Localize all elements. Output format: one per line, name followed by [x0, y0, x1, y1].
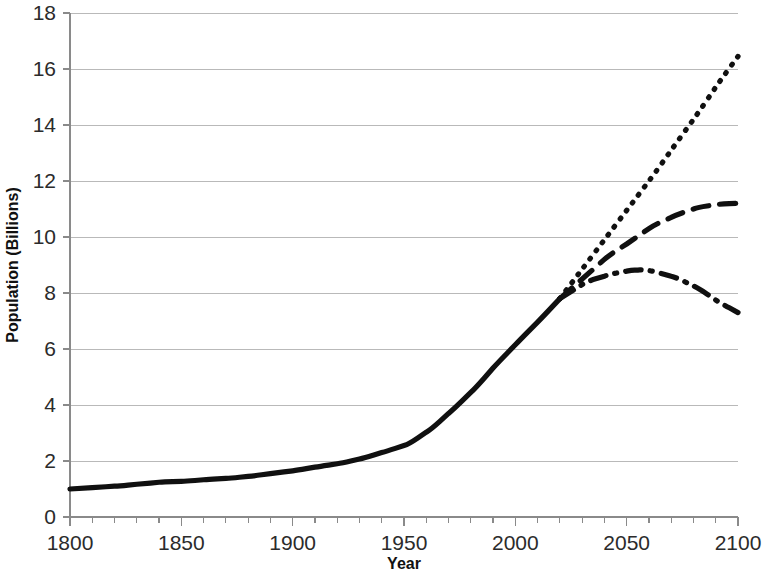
chart-background: [0, 0, 773, 581]
y-tick-label-0: 0: [44, 505, 56, 528]
x-tick-label-2000: 2000: [492, 531, 539, 554]
y-tick-label-2: 2: [44, 449, 56, 472]
y-tick-label-18: 18: [33, 1, 56, 24]
y-tick-label-8: 8: [44, 281, 56, 304]
population-projection-chart: 024681012141618 180018501900195020002050…: [0, 0, 773, 581]
x-tick-label-1850: 1850: [158, 531, 205, 554]
x-tick-label-1800: 1800: [47, 531, 94, 554]
chart-canvas: 024681012141618 180018501900195020002050…: [0, 0, 773, 581]
y-tick-label-16: 16: [33, 57, 56, 80]
x-axis-title: Year: [387, 555, 421, 572]
y-tick-label-12: 12: [33, 169, 56, 192]
x-tick-label-2100: 2100: [715, 531, 762, 554]
y-tick-label-14: 14: [33, 113, 57, 136]
y-tick-label-6: 6: [44, 337, 56, 360]
x-tick-label-2050: 2050: [603, 531, 650, 554]
y-axis-title: Population (Billions): [4, 187, 21, 343]
y-tick-label-10: 10: [33, 225, 56, 248]
x-tick-label-1900: 1900: [269, 531, 316, 554]
y-tick-label-4: 4: [44, 393, 56, 416]
x-tick-label-1950: 1950: [381, 531, 428, 554]
